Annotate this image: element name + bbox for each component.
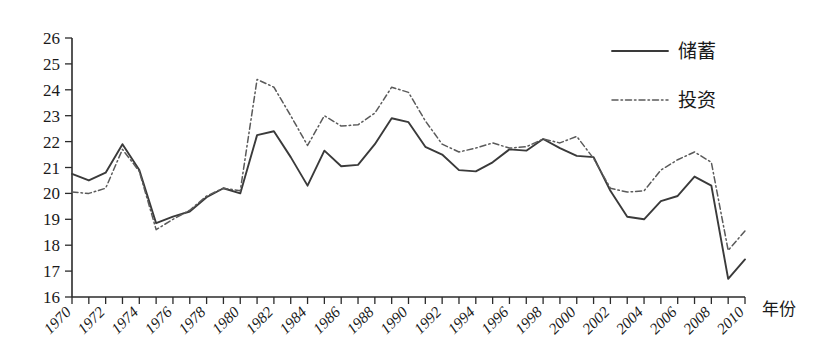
x-tick-label: 1998 <box>511 303 545 337</box>
x-tick-label: 1978 <box>175 303 209 337</box>
series-line-savings <box>72 118 745 279</box>
chart-legend: 储蓄 投资 <box>612 41 716 111</box>
legend-label-savings: 储蓄 <box>678 41 716 62</box>
y-tick-label: 26 <box>43 29 60 48</box>
line-chart: 1617181920212223242526 19701972197419761… <box>0 0 837 364</box>
x-axis-tick-labels: 1970197219741976197819801982198419861988… <box>40 303 747 337</box>
x-tick-label: 2004 <box>612 303 646 337</box>
y-tick-label: 19 <box>43 210 60 229</box>
x-axis-ticks <box>72 297 745 304</box>
y-tick-label: 25 <box>43 55 60 74</box>
x-tick-label: 1990 <box>377 303 411 337</box>
y-tick-label: 23 <box>43 107 60 126</box>
x-tick-label: 1988 <box>343 303 377 337</box>
x-tick-label: 1976 <box>141 303 175 337</box>
x-tick-label: 2002 <box>579 303 613 337</box>
x-tick-label: 1974 <box>107 303 141 337</box>
y-tick-label: 18 <box>43 236 60 255</box>
x-axis-title: 年份 <box>762 300 796 319</box>
legend-label-investment: 投资 <box>678 90 716 111</box>
x-tick-label: 1992 <box>410 303 444 337</box>
x-tick-label: 1986 <box>309 303 343 337</box>
series-line-investment <box>72 79 745 250</box>
x-tick-label: 1980 <box>208 303 242 337</box>
x-tick-label: 2008 <box>680 303 714 337</box>
x-tick-label: 1996 <box>478 303 512 337</box>
x-tick-label: 2006 <box>646 303 680 337</box>
y-axis-tick-labels: 1617181920212223242526 <box>43 29 61 307</box>
x-tick-label: 1970 <box>40 303 74 337</box>
x-tick-label: 1994 <box>444 303 478 337</box>
x-tick-label: 2010 <box>713 303 747 337</box>
y-tick-label: 16 <box>43 288 60 307</box>
x-tick-label: 1972 <box>74 303 108 337</box>
y-tick-label: 20 <box>43 184 60 203</box>
x-tick-label: 2000 <box>545 303 579 337</box>
y-tick-label: 17 <box>43 262 61 281</box>
y-tick-label: 21 <box>43 159 60 178</box>
x-tick-label: 1984 <box>276 303 310 337</box>
x-tick-label: 1982 <box>242 303 276 337</box>
y-axis-ticks <box>65 38 72 297</box>
chart-container: 1617181920212223242526 19701972197419761… <box>0 0 837 364</box>
y-tick-label: 24 <box>43 81 61 100</box>
y-tick-label: 22 <box>43 133 60 152</box>
